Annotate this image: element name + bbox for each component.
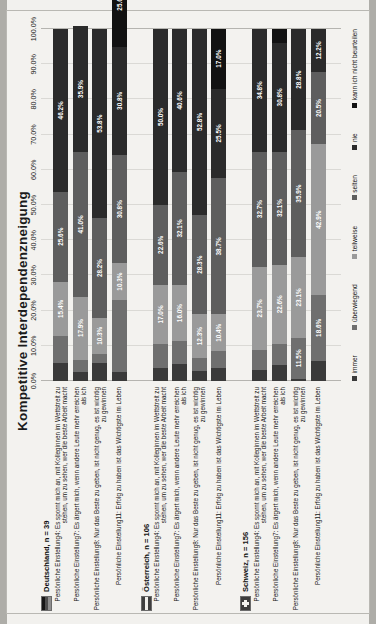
legend-item[interactable]: überwiegend bbox=[351, 284, 358, 329]
bar-segment-kann[interactable]: 17.0% bbox=[211, 29, 226, 89]
bar-segment-nie[interactable]: 35.9% bbox=[73, 26, 88, 152]
bar-segment-teilweise[interactable]: 15.4% bbox=[53, 282, 68, 336]
bar-row[interactable]: Persönliche Einstellung4: Es spornt mich… bbox=[153, 29, 168, 381]
bar-segment-überwiegend[interactable] bbox=[53, 336, 68, 363]
stacked-bar[interactable]: 16.0%32.1%40.6% bbox=[172, 29, 187, 381]
bar-segment-überwiegend[interactable] bbox=[153, 344, 168, 367]
bar-segment-teilweise[interactable]: 42.9% bbox=[311, 144, 326, 295]
stacked-bar[interactable]: 10.4%38.7%25.5%17.0% bbox=[211, 29, 226, 381]
group-label: Deutschland, n = 39 bbox=[42, 520, 51, 592]
group-label: Schweiz, n = 156 bbox=[241, 532, 250, 592]
legend-item[interactable]: immer bbox=[351, 355, 358, 381]
bar-segment-selten[interactable]: 30.8% bbox=[112, 155, 127, 263]
stacked-bar[interactable]: 18.6%42.9%20.5%12.2% bbox=[311, 29, 326, 381]
legend-item[interactable]: teilweise bbox=[351, 226, 358, 259]
bar-row[interactable]: Persönliche Einstellung7: Es ärgert mich… bbox=[172, 29, 187, 381]
stacked-bar[interactable]: 11.5%23.1%35.9%28.8% bbox=[291, 29, 306, 381]
bar-segment-teilweise[interactable]: 10.3% bbox=[112, 263, 127, 299]
bar-segment-immer[interactable] bbox=[73, 372, 88, 381]
bar-segment-nie[interactable]: 50.0% bbox=[153, 29, 168, 205]
bar-segment-nie[interactable]: 28.8% bbox=[291, 29, 306, 130]
bar-row[interactable]: Persönliche Einstellung7: Es ärgert mich… bbox=[272, 29, 287, 381]
bar-segment-überwiegend[interactable] bbox=[172, 341, 187, 364]
bar-segment-nie[interactable]: 12.2% bbox=[311, 29, 326, 72]
stacked-bar[interactable]: 10.3%30.8%30.8%25.6% bbox=[112, 29, 127, 381]
bar-segment-teilweise[interactable]: 10.4% bbox=[211, 315, 226, 352]
group-heading: Österreich, n = 106 bbox=[141, 385, 152, 611]
bar-segment-überwiegend[interactable]: 18.6% bbox=[311, 295, 326, 360]
bar-row[interactable]: Persönliche Einstellung11: Erfolg zu hab… bbox=[211, 29, 226, 381]
bar-segment-selten[interactable]: 28.3% bbox=[192, 215, 207, 315]
bar-segment-nie[interactable]: 53.8% bbox=[92, 29, 107, 218]
stacked-bar[interactable]: 23.7%32.7%34.8% bbox=[252, 29, 267, 381]
bar-row[interactable]: Persönliche Einstellung8: Nur das Beste … bbox=[192, 29, 207, 381]
bar-segment-nie[interactable]: 30.8% bbox=[112, 47, 127, 155]
bar-row[interactable]: Persönliche Einstellung7: Es ärgert mich… bbox=[73, 29, 88, 381]
x-tick-label: 100.0% bbox=[29, 17, 38, 41]
bar-segment-teilweise[interactable]: 10.3% bbox=[92, 318, 107, 354]
bar-segment-selten[interactable]: 20.5% bbox=[311, 72, 326, 144]
bar-segment-nie[interactable]: 30.8% bbox=[272, 43, 287, 151]
bar-segment-teilweise[interactable]: 23.7% bbox=[252, 267, 267, 350]
bar-segment-immer[interactable] bbox=[211, 368, 226, 381]
bar-segment-immer[interactable] bbox=[192, 371, 207, 381]
bar-segment-überwiegend[interactable] bbox=[73, 360, 88, 372]
bar-segment-immer[interactable] bbox=[112, 372, 127, 381]
bar-segment-selten[interactable]: 38.7% bbox=[211, 178, 226, 314]
bar-row[interactable]: Persönliche Einstellung11: Erfolg zu hab… bbox=[311, 29, 326, 381]
bar-segment-immer[interactable] bbox=[291, 379, 306, 381]
bar-segment-nie[interactable]: 46.2% bbox=[53, 29, 68, 192]
bar-segment-selten[interactable]: 35.9% bbox=[291, 130, 306, 256]
stacked-bar[interactable]: 12.3%28.3%52.8% bbox=[192, 29, 207, 381]
bar-segment-nie[interactable]: 52.8% bbox=[192, 29, 207, 215]
bar-segment-überwiegend[interactable] bbox=[252, 350, 267, 370]
bar-segment-immer[interactable] bbox=[153, 368, 168, 381]
bar-row[interactable]: Persönliche Einstellung4: Es spornt mich… bbox=[53, 29, 68, 381]
bar-row-label: Persönliche Einstellung4: Es spornt mich… bbox=[252, 387, 267, 611]
bar-segment-selten[interactable]: 32.7% bbox=[252, 152, 267, 267]
bar-segment-immer[interactable] bbox=[311, 361, 326, 381]
bar-segment-überwiegend[interactable]: 11.5% bbox=[291, 338, 306, 378]
bar-segment-selten[interactable]: 32.1% bbox=[272, 152, 287, 265]
bar-segment-nie[interactable]: 40.6% bbox=[172, 29, 187, 172]
bar-segment-überwiegend[interactable] bbox=[112, 300, 127, 372]
bar-segment-immer[interactable] bbox=[172, 364, 187, 381]
bar-row[interactable]: Persönliche Einstellung8: Nur das Beste … bbox=[291, 29, 306, 381]
bar-segment-nie[interactable]: 34.8% bbox=[252, 29, 267, 151]
bar-segment-immer[interactable] bbox=[252, 370, 267, 381]
stacked-bar[interactable]: 17.9%41.0%35.9% bbox=[73, 29, 88, 381]
legend-item[interactable]: kann ich nicht beurteilen bbox=[351, 29, 358, 108]
bar-segment-nie[interactable]: 25.5% bbox=[211, 89, 226, 179]
bar-segment-überwiegend[interactable] bbox=[272, 344, 287, 365]
bar-segment-selten[interactable]: 32.1% bbox=[172, 172, 187, 285]
bar-segment-teilweise[interactable]: 12.3% bbox=[192, 315, 207, 358]
stacked-bar[interactable]: 17.0%22.6%50.0% bbox=[153, 29, 168, 381]
bar-segment-selten[interactable]: 28.2% bbox=[92, 218, 107, 317]
stacked-bar[interactable]: 22.6%32.1%30.8% bbox=[272, 29, 287, 381]
bar-segment-teilweise[interactable]: 23.1% bbox=[291, 257, 306, 338]
bar-segment-teilweise[interactable]: 16.0% bbox=[172, 285, 187, 341]
bar-row[interactable]: Persönliche Einstellung11: Erfolg zu hab… bbox=[112, 29, 127, 381]
bar-segment-teilweise[interactable]: 17.9% bbox=[73, 297, 88, 360]
bar-row[interactable]: Persönliche Einstellung4: Es spornt mich… bbox=[252, 29, 267, 381]
legend-item[interactable]: nie bbox=[351, 133, 358, 149]
bar-segment-kann[interactable]: 25.6% bbox=[112, 0, 127, 47]
stacked-bar[interactable]: 15.4%25.6%46.2% bbox=[53, 29, 68, 381]
bar-segment-teilweise[interactable]: 17.0% bbox=[153, 285, 168, 345]
bar-segment-immer[interactable] bbox=[272, 365, 287, 381]
bar-segment-selten[interactable]: 22.6% bbox=[153, 205, 168, 285]
bar-segment-kann[interactable] bbox=[272, 29, 287, 43]
legend-item[interactable]: selten bbox=[351, 175, 358, 200]
bar-segment-immer[interactable] bbox=[53, 363, 68, 381]
plot-area: Deutschland, n = 39Persönliche Einstellu… bbox=[41, 29, 341, 381]
bar-segment-selten[interactable]: 41.0% bbox=[73, 152, 88, 296]
x-tick-label: 10.0% bbox=[29, 336, 38, 356]
bar-segment-teilweise[interactable]: 22.6% bbox=[272, 265, 287, 345]
bar-segment-immer[interactable] bbox=[92, 363, 107, 381]
stacked-bar[interactable]: 10.3%28.2%53.8% bbox=[92, 29, 107, 381]
bar-segment-überwiegend[interactable] bbox=[92, 354, 107, 363]
bar-segment-selten[interactable]: 25.6% bbox=[53, 192, 68, 282]
bar-row[interactable]: Persönliche Einstellung8: Nur das Beste … bbox=[92, 29, 107, 381]
bar-segment-überwiegend[interactable] bbox=[192, 358, 207, 371]
bar-segment-überwiegend[interactable] bbox=[211, 351, 226, 368]
